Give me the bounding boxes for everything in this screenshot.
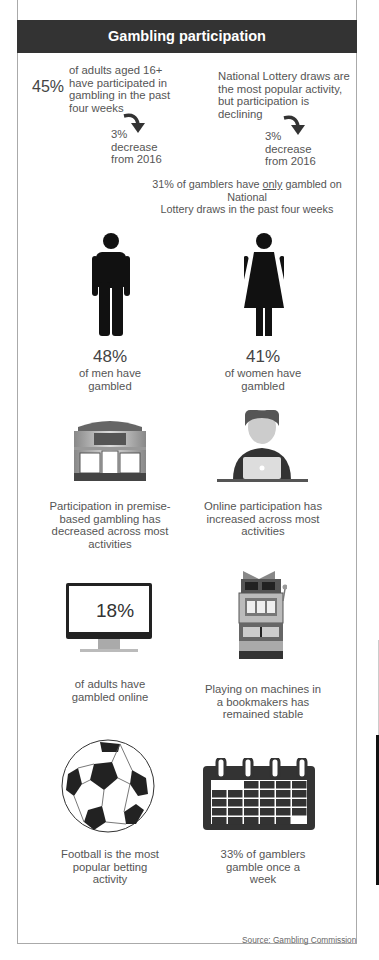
slot-machine-icon xyxy=(237,565,287,661)
calendar-day-cell xyxy=(260,790,275,798)
text-line: the most popular activity, xyxy=(218,83,350,96)
text-line: four weeks xyxy=(69,102,170,115)
text-line: based gambling has xyxy=(45,513,175,526)
lottery-only-text: 31% of gamblers have only gambled on Nat… xyxy=(140,178,354,216)
calendar-day-cell xyxy=(276,817,291,825)
text-line: activities xyxy=(200,525,326,538)
text-line: from 2016 xyxy=(111,153,162,166)
text-line: 31% of gamblers have only gambled on Nat… xyxy=(140,178,354,203)
calendar-day-cell xyxy=(244,808,259,816)
text-line: gambled online xyxy=(45,691,175,704)
adults-participation-stat: 45% xyxy=(32,78,64,96)
online-adults-stat: 18% xyxy=(96,600,134,622)
machines-text: Playing on machines in a bookmakers has … xyxy=(200,683,326,721)
text-line: 33% of gamblers xyxy=(200,848,326,861)
lottery-change-text: 3% decrease from 2016 xyxy=(265,130,316,168)
text-line: Lottery draws in the past four weeks xyxy=(140,203,354,216)
online-adults-text: of adults have gambled online xyxy=(45,678,175,703)
calendar-day-cell xyxy=(292,790,307,798)
text-line: decrease xyxy=(111,141,162,154)
text-line: a bookmakers has xyxy=(200,696,326,709)
laptop-user-icon xyxy=(215,410,310,484)
text-line: activities xyxy=(45,538,175,551)
adults-participation-text: of adults aged 16+ have participated in … xyxy=(69,64,170,114)
calendar-day-cell xyxy=(244,817,259,825)
calendar-day-cell xyxy=(260,808,275,816)
text-line: remained stable xyxy=(200,708,326,721)
text-line: Playing on machines in xyxy=(200,683,326,696)
football-icon xyxy=(60,738,156,834)
text-line: popular betting xyxy=(45,861,175,874)
adults-change-text: 3% decrease from 2016 xyxy=(111,128,162,166)
football-text: Football is the most popular betting act… xyxy=(45,848,175,886)
text-line: gambling in the past xyxy=(69,89,170,102)
text-line: gambled xyxy=(200,380,326,393)
emphasis-text: only xyxy=(263,178,283,190)
text-line: increased across most xyxy=(200,513,326,526)
weekly-text: 33% of gamblers gamble once a week xyxy=(200,848,326,886)
calendar-day-cell xyxy=(228,817,243,825)
man-icon xyxy=(92,232,130,336)
text-line: decreased across most xyxy=(45,525,175,538)
shopfront-icon xyxy=(72,415,148,481)
text-line: from 2016 xyxy=(265,155,316,168)
lottery-text: National Lottery draws are the most popu… xyxy=(218,70,350,120)
calendar-day-cell xyxy=(244,799,259,807)
calendar-day-cell xyxy=(212,808,227,816)
calendar-day-cell xyxy=(228,790,243,798)
calendar-day-cell xyxy=(212,799,227,807)
calendar-day-cell xyxy=(276,808,291,816)
text-line: Football is the most xyxy=(45,848,175,861)
calendar-day-cell xyxy=(260,781,275,789)
text-line: gambled xyxy=(60,380,160,393)
text-line: have participated in xyxy=(69,77,170,90)
calendar-day-cell xyxy=(292,781,307,789)
women-stat: 41% xyxy=(213,347,313,367)
calendar-day-cell xyxy=(276,790,291,798)
text-line: of adults aged 16+ xyxy=(69,64,170,77)
premises-text: Participation in premise- based gambling… xyxy=(45,500,175,550)
calendar-day-cell xyxy=(292,799,307,807)
text-line: of women have xyxy=(200,367,326,380)
text-line: National Lottery draws are xyxy=(218,70,350,83)
woman-icon xyxy=(244,232,284,336)
text-span: 31% of gamblers have xyxy=(152,178,262,190)
text-line: activity xyxy=(45,873,175,886)
calendar-day-cell xyxy=(212,817,227,825)
calendar-day-cell xyxy=(228,799,243,807)
text-line: 3% xyxy=(265,130,316,143)
calendar-day-cell xyxy=(276,781,291,789)
calendar-day-cell xyxy=(260,817,275,825)
calendar-day-cell xyxy=(244,781,259,789)
men-stat: 48% xyxy=(60,347,160,367)
calendar-day-cell xyxy=(276,799,291,807)
calendar-day-cell xyxy=(228,808,243,816)
section-title: Gambling participation xyxy=(17,20,357,53)
text-line: of men have xyxy=(60,367,160,380)
text-line: Online participation has xyxy=(200,500,326,513)
text-line: week xyxy=(200,873,326,886)
men-text: of men have gambled xyxy=(60,367,160,392)
calendar-icon xyxy=(203,758,315,830)
calendar-day-cell xyxy=(244,790,259,798)
text-line: Participation in premise- xyxy=(45,500,175,513)
women-text: of women have gambled xyxy=(200,367,326,392)
text-line: decrease xyxy=(265,143,316,156)
text-line: gamble once a xyxy=(200,861,326,874)
calendar-day-cell xyxy=(260,799,275,807)
text-line: 3% xyxy=(111,128,162,141)
calendar-day-cell xyxy=(212,790,227,798)
text-line: of adults have xyxy=(45,678,175,691)
source-note: Source: Gambling Commission xyxy=(242,934,356,947)
text-line: but participation is xyxy=(218,95,350,108)
online-text: Online participation has increased acros… xyxy=(200,500,326,538)
calendar-day-cell xyxy=(292,808,307,816)
